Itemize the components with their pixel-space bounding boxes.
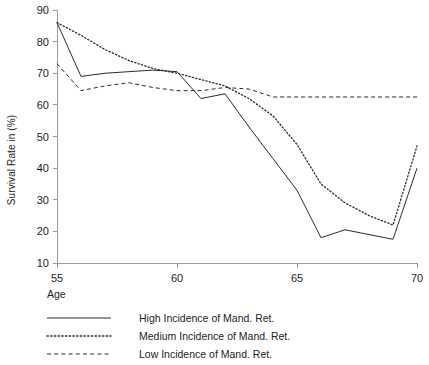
x-tick-label: 65 <box>291 272 303 284</box>
x-tick-label: 70 <box>411 272 423 284</box>
series-line-0 <box>57 23 417 240</box>
legend-swatch-dotted <box>45 330 113 342</box>
legend-item-medium: Medium Incidence of Mand. Ret. <box>45 327 365 345</box>
legend-item-low: Low Incidence of Mand. Ret. <box>45 345 365 363</box>
survival-rate-chart: Survival Rate in (%) 102030405060708090 … <box>0 0 429 365</box>
y-axis-ticks: 102030405060708090 <box>37 4 57 269</box>
data-series-group <box>57 23 417 240</box>
y-tick-label: 40 <box>37 162 49 174</box>
y-tick-label: 60 <box>37 99 49 111</box>
legend-title: Age <box>47 288 365 300</box>
x-tick-label: 55 <box>51 272 63 284</box>
series-line-1 <box>57 23 417 225</box>
legend-label-high: High Incidence of Mand. Ret. <box>139 312 274 324</box>
y-tick-label: 90 <box>37 4 49 16</box>
legend-swatch-dashed <box>45 348 113 360</box>
plot-area: 102030405060708090 55606570 <box>0 0 429 290</box>
y-tick-label: 20 <box>37 225 49 237</box>
legend-swatch-solid <box>45 312 113 324</box>
y-tick-label: 30 <box>37 194 49 206</box>
y-tick-label: 50 <box>37 131 49 143</box>
x-axis-ticks: 55606570 <box>51 263 423 284</box>
y-tick-label: 80 <box>37 36 49 48</box>
legend-label-medium: Medium Incidence of Mand. Ret. <box>139 330 290 342</box>
legend-label-low: Low Incidence of Mand. Ret. <box>139 348 272 360</box>
y-tick-label: 70 <box>37 67 49 79</box>
legend-item-high: High Incidence of Mand. Ret. <box>45 309 365 327</box>
x-tick-label: 60 <box>171 272 183 284</box>
chart-legend: Age High Incidence of Mand. Ret. Medium … <box>45 288 365 363</box>
y-tick-label: 10 <box>37 257 49 269</box>
